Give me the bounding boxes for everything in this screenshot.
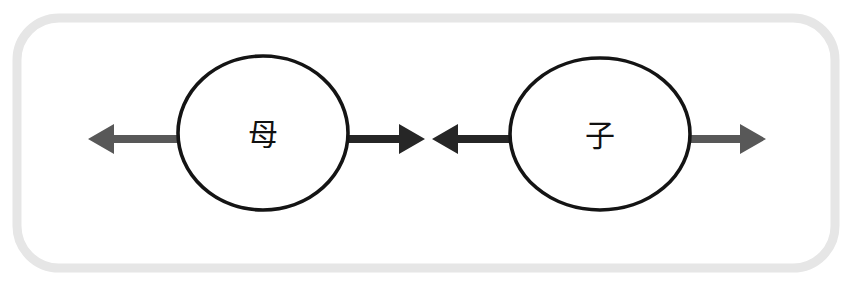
node-link-diagram: 母 子 [0,0,856,283]
arrow-child-outgoing-right [688,124,766,154]
arrow-mother-outgoing-left [88,124,178,154]
node-mother[interactable]: 母 [178,56,348,210]
node-child-label: 子 [585,118,615,153]
node-mother-label: 母 [248,117,278,152]
arrow-child-outgoing-left [432,124,512,154]
arrow-mother-outgoing-right [345,124,425,154]
node-child[interactable]: 子 [510,58,690,210]
diagram-canvas: 母 子 [0,0,856,283]
